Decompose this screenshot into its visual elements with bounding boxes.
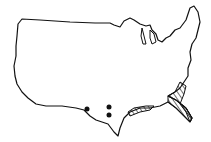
map-point [85, 107, 90, 112]
us-map-svg [0, 0, 211, 142]
map-point [107, 113, 112, 118]
us-map [0, 0, 211, 142]
map-point [107, 105, 112, 110]
